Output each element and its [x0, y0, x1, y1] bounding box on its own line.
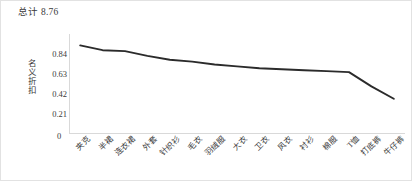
x-axis-tick-label: 半裙 — [97, 135, 114, 152]
x-axis-tick-label: 夹克 — [75, 135, 92, 152]
x-axis-tick-label: 大衣 — [232, 135, 249, 152]
x-axis-tick-label: 羽绒服 — [204, 135, 227, 158]
chart-title: 总计 8.76 — [18, 4, 58, 18]
x-axis-tick-label: 卫衣 — [254, 135, 271, 152]
x-axis-tick-label: 连衣裙 — [114, 135, 137, 158]
y-axis-tick-label: 0.63 — [52, 69, 67, 79]
y-axis-tick-label: 0.21 — [52, 109, 67, 119]
line-chart: 总计 8.76 名义折扣 0.210.420.630.84 0 夹克半裙连衣裙外… — [0, 0, 412, 181]
plot-area — [69, 34, 405, 134]
x-axis-tick-label: T恤 — [346, 135, 361, 150]
y-axis-tick-label: 0.84 — [52, 49, 67, 59]
x-axis-tick-label: 针织衫 — [159, 135, 182, 158]
series-line — [69, 34, 405, 134]
x-axis-tick-label: 风衣 — [276, 135, 293, 152]
x-axis-tick-label: 打底裤 — [360, 135, 383, 158]
x-axis-tick-label: 牛仔裤 — [383, 135, 406, 158]
x-axis-origin-label: 0 — [57, 131, 61, 141]
x-axis-tick-label: 毛衣 — [187, 135, 204, 152]
x-axis-tick-label: 外套 — [142, 135, 159, 152]
x-axis-tick-labels: 夹克半裙连衣裙外套针织衫毛衣羽绒服大衣卫衣风衣衬衫棉服T恤打底裤牛仔裤 — [69, 135, 412, 181]
y-axis-title: 名义折扣 — [21, 59, 35, 95]
y-axis-tick-labels: 0.210.420.630.84 — [37, 39, 67, 139]
x-axis-tick-label: 棉服 — [321, 135, 338, 152]
y-axis-tick-label: 0.42 — [52, 89, 67, 99]
x-axis-tick-label: 衬衫 — [299, 135, 316, 152]
